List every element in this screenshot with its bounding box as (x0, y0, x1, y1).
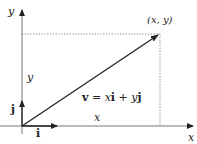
y-axis-label: y (8, 6, 14, 17)
eq-equals: = (88, 91, 104, 104)
unit-vector-i-label: i (36, 128, 40, 139)
vector-diagram: y x (x, y) y x j i v = xi + yj (0, 0, 197, 144)
x-axis-label: x (188, 132, 194, 143)
eq-plus: + (115, 91, 131, 104)
unit-vector-j-label: j (11, 104, 15, 115)
x-component-label: x (94, 112, 100, 123)
y-component-label: y (27, 72, 33, 83)
eq-j: j (137, 91, 141, 104)
vector-v-arrow (22, 35, 158, 126)
point-label: (x, y) (147, 15, 172, 25)
vector-equation: v = xi + yj (82, 92, 141, 103)
